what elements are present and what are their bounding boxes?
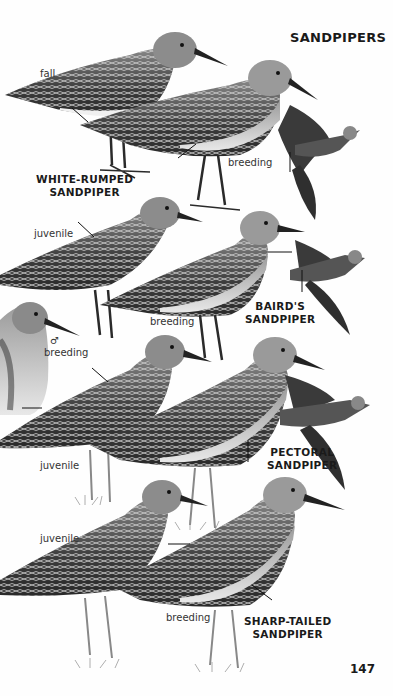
- label-breeding: breeding: [150, 316, 194, 327]
- label-juvenile: juvenile: [40, 460, 79, 471]
- species-name-white-rumped: WHITE-RUMPED SANDPIPER: [36, 173, 133, 199]
- species-name-pectoral: PECTORAL SANDPIPER: [267, 446, 337, 472]
- species-name-line1: BAIRD'S: [245, 300, 315, 313]
- label-fall: fall: [40, 68, 55, 79]
- bird-pectoral-flight: [280, 375, 370, 490]
- species-name-line1: WHITE-RUMPED: [36, 173, 133, 186]
- page-title: SANDPIPERS: [290, 30, 386, 45]
- species-name-line1: PECTORAL: [267, 446, 337, 459]
- label-breeding: breeding: [228, 157, 272, 168]
- label-breeding: breeding: [44, 347, 88, 358]
- species-name-line1: SHARP-TAILED: [244, 615, 331, 628]
- species-name-line2: SANDPIPER: [36, 186, 133, 199]
- field-guide-page: SANDPIPERS fall breeding WHITE-RUMPED SA…: [0, 0, 393, 696]
- species-name-line2: SANDPIPER: [245, 313, 315, 326]
- species-name-line2: SANDPIPER: [244, 628, 331, 641]
- species-name-sharp-tailed: SHARP-TAILED SANDPIPER: [244, 615, 331, 641]
- label-juvenile: juvenile: [40, 533, 79, 544]
- male-symbol: ♂: [50, 335, 59, 346]
- species-name-line2: SANDPIPER: [267, 459, 337, 472]
- page-number: 147: [350, 662, 375, 676]
- label-breeding: breeding: [166, 612, 210, 623]
- bird-pectoral-male-breeding: [0, 302, 80, 415]
- species-name-bairds: BAIRD'S SANDPIPER: [245, 300, 315, 326]
- label-juvenile: juvenile: [34, 228, 73, 239]
